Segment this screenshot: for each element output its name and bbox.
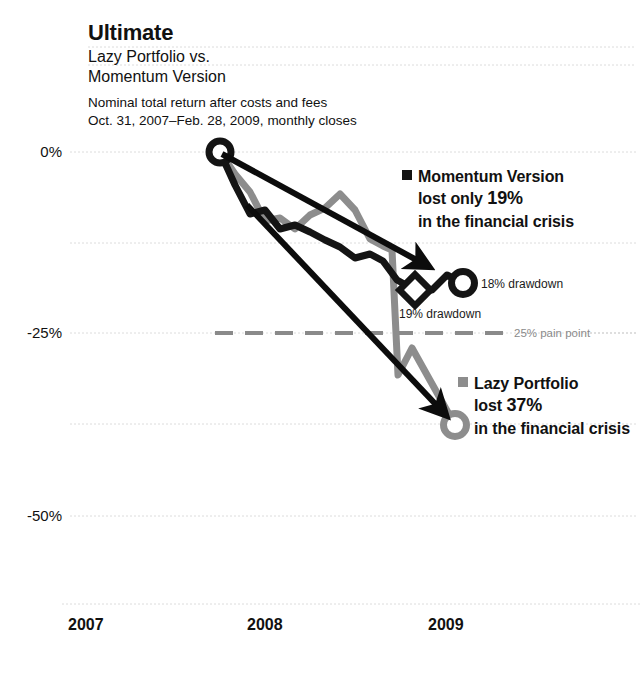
xtick-label-2007: 2007 (68, 616, 104, 634)
ytick-label-25: -25% (0, 324, 62, 341)
annotation-momentum-version: Momentum Version lost only 19% in the fi… (402, 166, 642, 232)
annotation-18pct-drawdown: 18% drawdown (481, 277, 563, 291)
legend-square-momentum-icon (402, 170, 412, 180)
annotation-momentum-lost: lost only (418, 190, 487, 207)
title-block: Ultimate Lazy Portfolio vs. Momentum Ver… (88, 20, 418, 130)
annotation-lazy-line1: Lazy Portfolio (458, 373, 643, 394)
ytick-label-0: 0% (0, 143, 62, 160)
annotation-momentum-line3: in the financial crisis (402, 211, 642, 232)
annotation-momentum-line2: lost only 19% (402, 187, 642, 211)
chart-note-line1: Nominal total return after costs and fee… (88, 94, 418, 112)
chart-note: Nominal total return after costs and fee… (88, 94, 418, 130)
chart-note-line2: Oct. 31, 2007–Feb. 28, 2009, monthly clo… (88, 112, 418, 130)
annotation-25pct-pain-point: 25% pain point (514, 327, 590, 339)
chart-subtitle-line2: Momentum Version (88, 67, 418, 87)
chart-subtitle-line1: Lazy Portfolio vs. (88, 47, 418, 67)
annotation-momentum-percent: 19% (487, 188, 523, 208)
xtick-label-2008: 2008 (247, 616, 283, 634)
xtick-label-2009: 2009 (428, 616, 464, 634)
annotation-lazy-title: Lazy Portfolio (474, 375, 578, 392)
annotation-momentum-line1: Momentum Version (402, 166, 642, 187)
annotation-momentum-title: Momentum Version (418, 168, 564, 185)
annotation-lazy-line2: lost 37% (458, 394, 643, 418)
annotation-lazy-lost: lost (474, 397, 506, 414)
page-title: Ultimate (88, 20, 418, 45)
ytick-label-50: -50% (0, 507, 62, 524)
annotation-lazy-portfolio: Lazy Portfolio lost 37% in the financial… (458, 373, 643, 439)
annotation-19pct-drawdown: 19% drawdown (399, 307, 481, 321)
chart-root: Ultimate Lazy Portfolio vs. Momentum Ver… (0, 0, 643, 675)
annotation-lazy-percent: 37% (506, 395, 542, 415)
annotation-lazy-line3: in the financial crisis (458, 418, 643, 439)
legend-square-lazy-icon (458, 377, 468, 387)
